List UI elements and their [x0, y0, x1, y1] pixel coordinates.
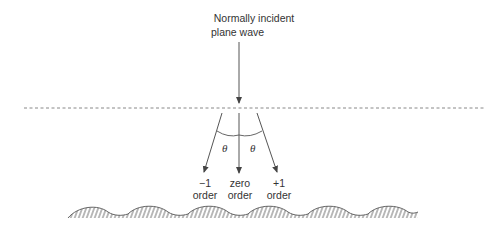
minus-one-order-label-line1: −1 — [199, 177, 211, 189]
minus-one-order-label-line2: order — [193, 189, 218, 201]
theta-right-label: θ — [250, 142, 256, 154]
plus-one-order-label-line2: order — [267, 189, 292, 201]
theta-left-label: θ — [222, 142, 228, 154]
plus-one-order-label-line1: +1 — [273, 177, 285, 189]
incident-label-line1: Normally incident — [214, 12, 295, 24]
plus-one-order-arrow — [257, 113, 277, 172]
grating-profile — [68, 206, 418, 218]
left-angle-arc — [217, 131, 239, 136]
zero-order-label-line2: order — [228, 189, 253, 201]
right-angle-arc — [239, 131, 262, 136]
incident-label-line2: plane wave — [211, 26, 264, 38]
diffraction-grating-diagram: Normally incident plane wave θ θ −1 orde… — [0, 0, 486, 229]
minus-one-order-arrow — [204, 113, 222, 172]
zero-order-label-line1: zero — [230, 177, 251, 189]
